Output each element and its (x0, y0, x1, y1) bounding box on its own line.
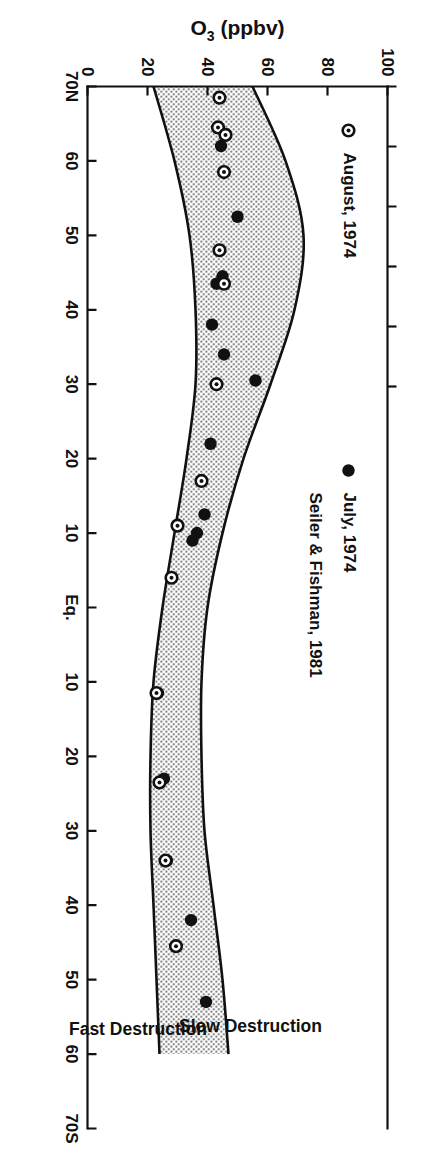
latitude-tick-label: 30 (61, 821, 80, 840)
latitude-tick-label: 50 (61, 970, 80, 989)
figure-root: 70N605040302010Eq.10203040506070S0204060… (0, 0, 427, 1173)
filled-circle-marker-icon (342, 464, 354, 476)
latitude-tick-label: 30 (61, 374, 80, 393)
latitude-tick-label: 50 (61, 225, 80, 244)
latitude-tick-label: 60 (61, 151, 80, 170)
legend-source-label: Seiler & Fishman, 1981 (305, 492, 324, 677)
ozone-axis-title: O3 (ppbv) (190, 15, 284, 43)
latitude-tick-label: 20 (61, 449, 80, 468)
latitude-tick-label: 10 (61, 523, 80, 542)
ozone-tick-label: 100 (377, 48, 396, 76)
legend-label-august: August, 1974 (339, 152, 358, 258)
latitude-tick-label: Eq. (61, 594, 80, 620)
latitude-tick-label: 70S (61, 1113, 80, 1143)
latitude-tick-label: 40 (61, 895, 80, 914)
axis-title-main: O (190, 15, 206, 38)
legend: August, 1974 July, 1974 Seiler & Fishman… (305, 124, 358, 677)
latitude-tick-label: 40 (61, 300, 80, 319)
curve-labels: Slow Destruction Fast Destruction (68, 1015, 321, 1039)
svg-text:O3 (ppbv): O3 (ppbv) (190, 15, 284, 43)
ozone-tick-label: 60 (257, 57, 276, 76)
fast-destruction-label: Fast Destruction (68, 1019, 206, 1039)
legend-item-august[interactable]: August, 1974 (339, 124, 358, 258)
latitude-tick-label: 60 (61, 1044, 80, 1063)
ozone-tick-label: 20 (137, 57, 156, 76)
ozone-tick-label: 80 (317, 57, 336, 76)
ozone-tick-label: 40 (197, 57, 216, 76)
rotated-figure-canvas: 70N605040302010Eq.10203040506070S0204060… (0, 0, 427, 1173)
ozone-latitude-scatter-chart: 70N605040302010Eq.10203040506070S0204060… (0, 0, 427, 1173)
latitude-tick-label: 20 (61, 746, 80, 765)
latitude-tick-label: 10 (61, 672, 80, 691)
axis-title-subscript: 3 (206, 27, 214, 43)
legend-label-july: July, 1974 (339, 492, 358, 573)
band-fill-area (150, 86, 304, 1054)
destruction-band (150, 86, 304, 1054)
legend-item-july[interactable]: July, 1974 (339, 464, 358, 573)
axis-title-units: (ppbv) (214, 15, 284, 38)
ozone-tick-label: 0 (77, 67, 96, 76)
